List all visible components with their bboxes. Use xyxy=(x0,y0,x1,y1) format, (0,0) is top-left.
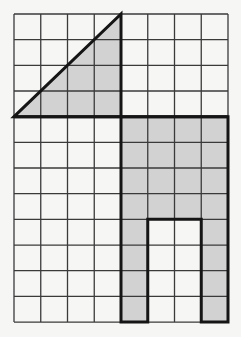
grid-diagram xyxy=(0,0,241,337)
